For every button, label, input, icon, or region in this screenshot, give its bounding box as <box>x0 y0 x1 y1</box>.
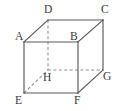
cube-diagram-canvas: ABCDEFGH <box>0 0 115 111</box>
vertex-label-b: B <box>70 30 78 42</box>
cube-figure: ABCDEFGH <box>0 0 115 111</box>
cube-edge-ad <box>24 20 48 42</box>
vertex-label-c: C <box>101 3 109 15</box>
vertex-label-h: H <box>43 71 51 83</box>
cube-edge-bc <box>78 20 103 42</box>
vertex-label-a: A <box>15 30 24 42</box>
cube-edge-fg <box>78 70 103 93</box>
vertex-label-g: G <box>103 70 111 82</box>
vertex-label-e: E <box>15 94 22 106</box>
vertex-labels-group: ABCDEFGH <box>15 3 111 106</box>
vertex-label-f: F <box>74 94 80 106</box>
solid-edges-group <box>24 20 103 93</box>
vertex-label-d: D <box>44 3 52 15</box>
